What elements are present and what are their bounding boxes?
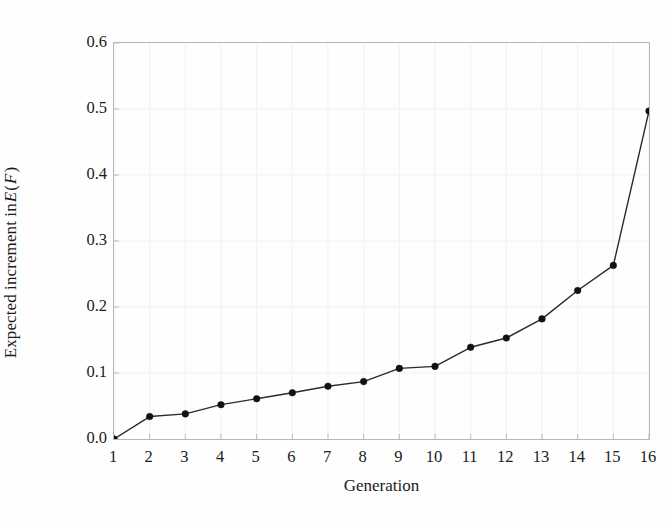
x-tick-label: 9: [378, 447, 418, 467]
x-tick-label: 11: [450, 447, 490, 467]
x-tick-label: 15: [592, 447, 632, 467]
x-tick-label: 1: [93, 447, 133, 467]
x-tick-label: 8: [343, 447, 383, 467]
data-series-line: [114, 111, 649, 439]
data-point-marker: [253, 395, 260, 402]
x-tick-label: 2: [129, 447, 169, 467]
x-tick-label: 14: [557, 447, 597, 467]
x-tick-label: 3: [164, 447, 204, 467]
y-tick-label: 0.4: [61, 164, 107, 184]
data-point-marker: [114, 436, 117, 439]
y-axis-label-var-e: E: [1, 191, 21, 203]
y-axis-label-post: ): [1, 167, 21, 173]
y-tick-label: 0.1: [61, 362, 107, 382]
chart-canvas: [114, 43, 649, 439]
data-point-marker: [610, 262, 617, 269]
plot-area: [113, 42, 650, 440]
data-point-marker: [218, 401, 225, 408]
data-point-marker: [182, 411, 189, 418]
data-point-marker: [574, 287, 581, 294]
y-tick-label: 0.5: [61, 98, 107, 118]
x-tick-label: 16: [628, 447, 668, 467]
x-tick-label: 4: [200, 447, 240, 467]
data-point-marker: [539, 316, 546, 323]
y-tick-label: 0.3: [61, 230, 107, 250]
data-point-marker: [503, 335, 510, 342]
y-axis-label: Expected increment in E (F): [0, 0, 34, 525]
data-point-marker: [146, 413, 153, 420]
x-tick-label: 13: [521, 447, 561, 467]
x-tick-label: 7: [307, 447, 347, 467]
data-point-marker: [432, 363, 439, 370]
x-tick-label: 5: [236, 447, 276, 467]
data-point-marker: [289, 390, 296, 397]
x-tick-label: 12: [485, 447, 525, 467]
x-axis-label: Generation: [113, 476, 650, 496]
data-point-marker: [360, 378, 367, 385]
data-point-marker: [467, 344, 474, 351]
chart-figure: Expected increment in E (F) 0.00.10.20.3…: [0, 0, 670, 525]
y-axis-label-pre: Expected increment in: [1, 203, 21, 358]
y-axis-label-mid: (: [1, 185, 21, 191]
y-axis-label-var-f: F: [1, 173, 21, 185]
x-tick-label: 6: [271, 447, 311, 467]
y-tick-label: 0.0: [61, 428, 107, 448]
data-point-marker: [396, 365, 403, 372]
y-tick-label: 0.6: [61, 32, 107, 52]
y-tick-label: 0.2: [61, 296, 107, 316]
x-tick-label: 10: [414, 447, 454, 467]
data-point-marker: [325, 383, 332, 390]
